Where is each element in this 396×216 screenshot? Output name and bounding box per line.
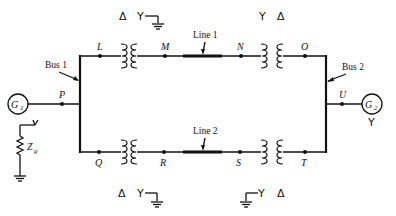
svg-text:G: G: [11, 99, 18, 110]
svg-text:Line 2: Line 2: [193, 126, 218, 136]
ground-icon: [151, 202, 163, 207]
svg-text:Q: Q: [95, 157, 103, 168]
delta-symbol: Δ: [277, 187, 285, 200]
transformer-t1: [121, 44, 137, 68]
line-2-label: Line 2: [193, 126, 218, 151]
bus-1-label: Bus 1: [45, 60, 79, 81]
svg-text:T: T: [301, 157, 308, 168]
ground-icon: [152, 24, 164, 29]
svg-text:Z: Z: [27, 141, 33, 152]
wye-symbol: Y: [367, 116, 375, 129]
wye-symbol: Y: [136, 10, 144, 23]
node-r: R: [159, 150, 166, 168]
transformer-t2: [261, 44, 283, 68]
generator-g2: G 2 Y: [326, 94, 382, 129]
transformer-t3: [121, 140, 137, 164]
node-t: T: [301, 150, 308, 168]
t4-winding-symbols: Y Δ: [246, 187, 285, 201]
svg-text:O: O: [301, 41, 308, 52]
delta-symbol: Δ: [277, 10, 285, 23]
svg-text:2: 2: [374, 104, 378, 112]
t3-winding-symbols: Δ Y: [118, 187, 157, 201]
svg-text:N: N: [236, 41, 245, 52]
node-q: Q: [95, 150, 103, 168]
t1-winding-symbols: Δ Y: [119, 10, 158, 23]
svg-text:Bus 2: Bus 2: [342, 62, 364, 72]
svg-text:U: U: [339, 89, 347, 100]
svg-text:Bus 1: Bus 1: [45, 60, 67, 70]
line-1-label: Line 1: [193, 30, 218, 55]
wye-symbol: Y: [258, 10, 266, 23]
transformer-t4: [261, 140, 283, 164]
wye-symbol: Y: [136, 187, 144, 200]
svg-text:P: P: [58, 89, 65, 100]
ground-icon: [240, 202, 252, 207]
svg-text:R: R: [159, 157, 166, 168]
node-s: S: [236, 150, 242, 168]
bus-2-label: Bus 2: [327, 62, 364, 82]
svg-text:S: S: [236, 157, 241, 168]
delta-symbol: Δ: [118, 187, 126, 200]
svg-text:g: g: [34, 147, 38, 155]
svg-text:G: G: [365, 99, 372, 110]
ground-icon: [14, 176, 26, 181]
svg-text:Line 1: Line 1: [193, 30, 218, 40]
wye-symbol: Y: [257, 187, 265, 200]
delta-symbol: Δ: [119, 10, 127, 23]
t2-winding-symbols: Y Δ: [258, 10, 285, 23]
svg-text:M: M: [160, 41, 170, 52]
one-line-diagram: Bus 1 Bus 2 L M N O Line 1: [0, 0, 396, 216]
generator-g1: G 1: [8, 94, 80, 114]
grounding-impedance: Z g: [17, 120, 38, 176]
svg-text:L: L: [96, 41, 103, 52]
svg-text:1: 1: [20, 104, 24, 112]
